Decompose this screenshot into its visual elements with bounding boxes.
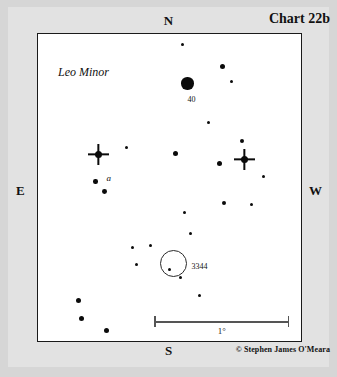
constellation-label: Leo Minor [58, 66, 109, 78]
scale-bar-line [154, 321, 289, 322]
object-label-40: 40 [187, 96, 195, 104]
star-marker [230, 80, 234, 84]
star-marker [125, 146, 129, 150]
star-marker [181, 77, 193, 89]
copyright-credit: © Stephen James O'Meara [236, 346, 330, 354]
chart-title: Chart 22b [269, 12, 330, 26]
star-marker [207, 121, 211, 125]
star-marker [240, 139, 244, 143]
object-label-a: a [106, 174, 111, 183]
star-marker [102, 189, 107, 194]
star-marker [149, 244, 153, 248]
scale-bar-label: 1° [154, 326, 289, 336]
star-marker [222, 201, 226, 205]
cardinal-label-west: W [309, 184, 322, 197]
star-marker [217, 161, 222, 166]
star-marker [241, 156, 248, 163]
star-marker [93, 179, 97, 183]
star-marker [198, 294, 201, 297]
galaxy-marker-3344 [160, 250, 187, 277]
star-marker [262, 175, 265, 178]
star-marker [79, 316, 84, 321]
star-marker [179, 276, 182, 279]
star-marker [173, 151, 178, 156]
star-marker [95, 151, 102, 158]
cardinal-label-east: E [16, 184, 25, 197]
star-marker [181, 43, 184, 46]
star-marker [250, 203, 254, 207]
star-marker [131, 246, 134, 249]
star-marker [220, 64, 225, 69]
star-chart-frame: Leo Minor 40a3344 1° [37, 33, 302, 342]
star-marker [135, 263, 138, 266]
star-marker [183, 211, 187, 215]
star-chart-page: N S E W Chart 22b © Stephen James O'Mear… [0, 0, 337, 377]
star-marker [104, 328, 109, 333]
star-marker [76, 298, 81, 303]
star-marker [189, 232, 193, 236]
scale-bar: 1° [154, 316, 289, 338]
object-label-3344: 3344 [191, 263, 207, 271]
